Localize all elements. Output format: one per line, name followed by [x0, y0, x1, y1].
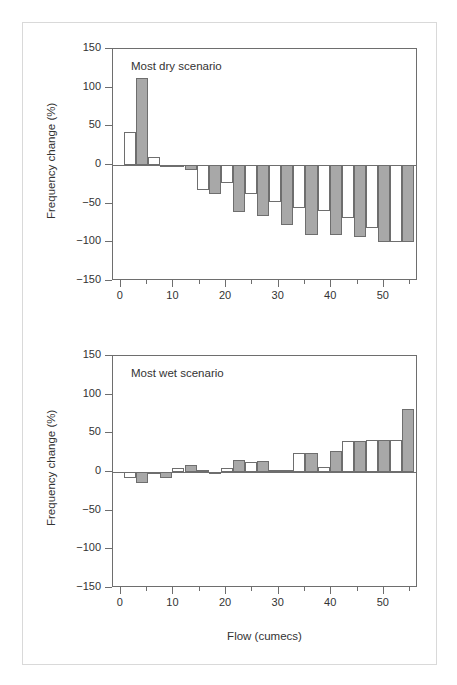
x-axis-label: Flow (cumecs) [112, 630, 417, 642]
bar-gray-7 [305, 165, 317, 235]
x-tick-minor-top-0 [146, 280, 147, 284]
y-tick-label-bottom-3: 0 [56, 464, 101, 476]
figure-frame: Frequency change (%) 150100500−50−100−15… [22, 22, 437, 665]
bar-white-9 [342, 441, 354, 472]
y-tick-label-bottom-2: 50 [56, 425, 101, 437]
bar-gray-3 [209, 165, 221, 194]
panel-annotation-most-dry: Most dry scenario [131, 60, 222, 72]
x-tick-minor-bottom-1 [199, 587, 200, 591]
y-tick-label-bottom-4: −50 [56, 503, 101, 515]
y-tick-bottom-5 [105, 548, 112, 549]
bar-white-1 [148, 472, 160, 474]
bar-white-4 [221, 468, 233, 472]
x-tick-major-top-3 [278, 280, 279, 287]
x-tick-label-bottom-3: 30 [258, 596, 298, 608]
y-tick-label-top-3: 0 [56, 157, 101, 169]
y-tick-label-top-6: −150 [56, 273, 101, 285]
bar-gray-1 [160, 472, 172, 478]
bar-gray-1 [160, 165, 172, 167]
x-tick-major-top-4 [330, 280, 331, 287]
x-tick-label-bottom-2: 20 [205, 596, 245, 608]
bar-gray-10 [378, 440, 390, 472]
bar-gray-9 [354, 441, 366, 472]
x-tick-major-bottom-0 [120, 587, 121, 594]
y-tick-top-3 [105, 164, 112, 165]
x-tick-major-top-5 [383, 280, 384, 287]
x-tick-label-top-2: 20 [205, 289, 245, 301]
x-tick-major-top-1 [172, 280, 173, 287]
plot-area-most-wet [112, 355, 417, 587]
plot-area-most-dry [112, 48, 417, 280]
panel-annotation-most-wet: Most wet scenario [131, 367, 224, 379]
bar-group-most-wet [113, 356, 416, 586]
y-tick-label-bottom-5: −100 [56, 541, 101, 553]
y-tick-label-bottom-1: 100 [56, 387, 101, 399]
bar-gray-11 [402, 409, 414, 472]
bar-gray-0 [136, 472, 148, 483]
y-tick-bottom-1 [105, 394, 112, 395]
y-tick-label-top-4: −50 [56, 196, 101, 208]
bar-group-most-dry [113, 49, 416, 279]
bar-gray-4 [233, 165, 245, 212]
bar-gray-4 [233, 460, 245, 472]
x-tick-major-bottom-1 [172, 587, 173, 594]
bar-white-2 [172, 165, 184, 167]
bar-gray-2 [185, 465, 197, 472]
x-tick-major-top-2 [225, 280, 226, 287]
y-tick-bottom-6 [105, 587, 112, 588]
y-tick-label-top-1: 100 [56, 80, 101, 92]
x-tick-minor-top-2 [251, 280, 252, 284]
x-tick-major-bottom-5 [383, 587, 384, 594]
bar-gray-7 [305, 453, 317, 472]
x-tick-label-bottom-0: 0 [100, 596, 140, 608]
bar-white-9 [342, 165, 354, 218]
y-tick-top-1 [105, 87, 112, 88]
x-tick-major-bottom-3 [278, 587, 279, 594]
bar-white-11 [390, 165, 402, 242]
x-tick-minor-bottom-4 [357, 587, 358, 591]
x-tick-label-top-3: 30 [258, 289, 298, 301]
x-tick-minor-bottom-3 [304, 587, 305, 591]
bar-gray-5 [257, 461, 269, 472]
bar-white-1 [148, 157, 160, 165]
panel-most-dry: Frequency change (%) 150100500−50−100−15… [23, 23, 438, 333]
bar-gray-3 [209, 472, 221, 474]
bar-white-2 [172, 468, 184, 472]
x-tick-major-top-0 [120, 280, 121, 287]
panel-most-wet: Frequency change (%) 150100500−50−100−15… [23, 333, 438, 666]
y-tick-top-6 [105, 280, 112, 281]
bar-white-11 [390, 440, 402, 472]
bar-white-8 [318, 467, 330, 472]
x-tick-minor-top-5 [409, 280, 410, 284]
bar-white-6 [269, 165, 281, 202]
bar-white-3 [197, 165, 209, 190]
bar-gray-0 [136, 78, 148, 165]
bar-white-8 [318, 165, 330, 211]
x-tick-minor-bottom-5 [409, 587, 410, 591]
bar-white-7 [293, 165, 305, 208]
bar-white-7 [293, 453, 305, 472]
y-tick-top-0 [105, 48, 112, 49]
bar-white-10 [366, 440, 378, 472]
bar-gray-2 [185, 165, 197, 170]
x-tick-minor-top-3 [304, 280, 305, 284]
y-tick-bottom-0 [105, 355, 112, 356]
y-tick-bottom-2 [105, 432, 112, 433]
x-tick-label-top-4: 40 [310, 289, 350, 301]
y-tick-top-4 [105, 203, 112, 204]
bar-white-0 [124, 472, 136, 478]
y-tick-label-bottom-0: 150 [56, 348, 101, 360]
y-tick-bottom-4 [105, 510, 112, 511]
bar-white-10 [366, 165, 378, 228]
y-tick-bottom-3 [105, 471, 112, 472]
bar-gray-8 [330, 451, 342, 472]
x-tick-label-top-5: 50 [363, 289, 403, 301]
bar-gray-8 [330, 165, 342, 235]
x-tick-major-bottom-4 [330, 587, 331, 594]
bar-white-6 [269, 470, 281, 472]
y-tick-label-top-2: 50 [56, 118, 101, 130]
x-tick-label-bottom-4: 40 [310, 596, 350, 608]
x-tick-major-bottom-2 [225, 587, 226, 594]
bar-gray-9 [354, 165, 366, 237]
bar-white-0 [124, 132, 136, 165]
